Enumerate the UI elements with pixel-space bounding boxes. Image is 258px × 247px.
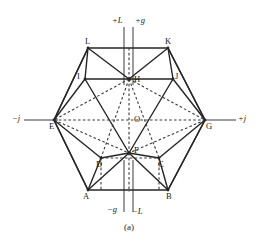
axis-label-plus-L: +L <box>112 16 122 25</box>
lattice-diagram <box>0 0 258 247</box>
vertex-label-B: B <box>166 192 172 201</box>
dashed-edges <box>54 48 205 192</box>
figure-caption: (a) <box>0 222 258 232</box>
vertex-label-H: H <box>134 75 140 84</box>
axis-label-minus-L: −L <box>132 207 142 216</box>
axis-label-minus-j: −j <box>12 114 20 123</box>
figure-container: +L +g −g −L −j +j L K I H J E O G D F C … <box>0 0 258 247</box>
axis-label-plus-j: +j <box>238 114 246 123</box>
vertex-label-A: A <box>83 192 89 201</box>
vertex-label-E: E <box>49 122 54 131</box>
vertex-label-J: J <box>175 72 179 81</box>
axis-label-plus-g: +g <box>135 16 145 25</box>
vertex-label-F: F <box>134 146 139 155</box>
vertex-label-G: G <box>206 122 212 131</box>
vertex-label-K: K <box>165 37 171 46</box>
axis-label-minus-g: −g <box>107 205 117 214</box>
vertex-label-D: D <box>96 160 102 169</box>
vertex-label-L: L <box>85 37 90 46</box>
vertex-label-C: C <box>158 160 164 169</box>
vertex-label-I: I <box>77 72 80 81</box>
vertex-label-O: O <box>134 115 140 124</box>
